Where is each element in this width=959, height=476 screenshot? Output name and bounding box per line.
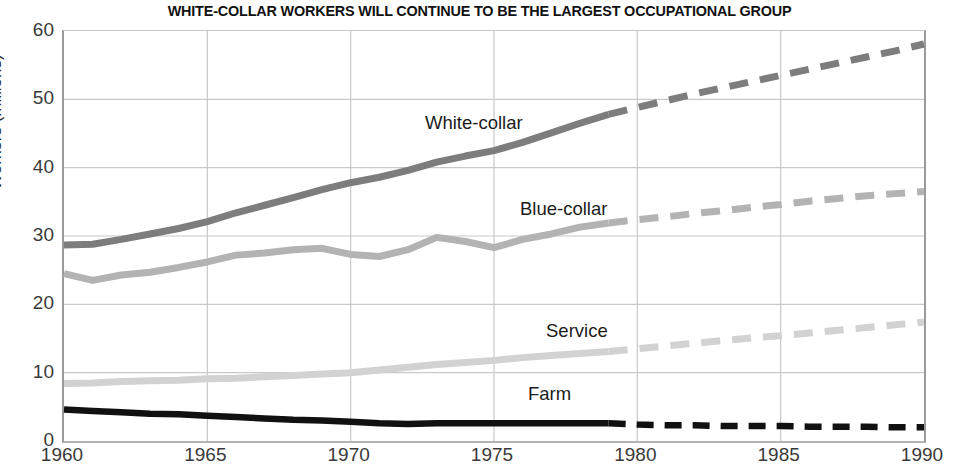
y-tick-label-10: 10 (10, 361, 54, 383)
x-tick-label-1965: 1965 (184, 444, 226, 466)
series-label-farm: Farm (528, 383, 571, 405)
y-tick-label-20: 20 (10, 292, 54, 314)
x-tick-label-1960: 1960 (41, 444, 83, 466)
series-line-white-collar-historical (64, 114, 609, 245)
chart-root: WHITE-COLLAR WORKERS WILL CONTINUE TO BE… (0, 0, 959, 476)
series-line-service-projected (609, 322, 924, 351)
y-tick-label-30: 30 (10, 224, 54, 246)
series-line-service-historical (64, 351, 609, 383)
series-label-service: Service (546, 320, 608, 342)
x-tick-label-1985: 1985 (758, 444, 800, 466)
series-line-farm-projected (609, 423, 924, 427)
series-label-white-collar: White-collar (425, 112, 523, 134)
series-line-white-collar-projected (609, 44, 924, 114)
y-tick-label-50: 50 (10, 87, 54, 109)
series-canvas (64, 31, 924, 441)
series-label-blue-collar: Blue-collar (520, 198, 607, 220)
plot-area (62, 30, 926, 443)
series-line-blue-collar-projected (609, 192, 924, 223)
y-tick-label-60: 60 (10, 19, 54, 41)
y-axis-title: Workers (millions) (0, 54, 6, 190)
chart-title: WHITE-COLLAR WORKERS WILL CONTINUE TO BE… (34, 2, 926, 20)
x-tick-label-1980: 1980 (614, 444, 656, 466)
x-tick-label-1975: 1975 (471, 444, 513, 466)
x-tick-label-1990: 1990 (901, 444, 943, 466)
series-line-farm-historical (64, 410, 609, 424)
x-tick-label-1970: 1970 (328, 444, 370, 466)
y-tick-label-40: 40 (10, 156, 54, 178)
